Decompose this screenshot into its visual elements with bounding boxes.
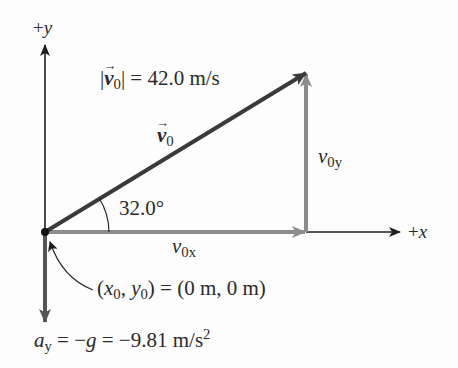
x-axis-label: +x <box>408 222 427 241</box>
vector-v0-label: →v0 <box>157 125 174 149</box>
vector-v0-symbol: →v <box>104 68 113 89</box>
projectile-velocity-diagram: +y +x |→v0| = 42.0 m/s →v0 v0y 32.0° v0x… <box>0 0 458 368</box>
y-axis-label: +y <box>33 18 52 37</box>
origin-point <box>41 228 49 236</box>
angle-label: 32.0° <box>119 198 164 219</box>
diagram-graphics <box>0 0 458 368</box>
angle-arc <box>99 198 109 232</box>
origin-pointer-curve <box>50 242 93 290</box>
v0y-component-label: v0y <box>318 146 342 170</box>
v0-vector-arrow <box>45 73 306 232</box>
acceleration-label: ay = −g = −9.81 m/s2 <box>34 327 210 354</box>
v0x-component-label: v0x <box>172 236 196 260</box>
origin-label: (x0, y0) = (0 m, 0 m) <box>97 278 266 302</box>
velocity-magnitude-label: |→v0| = 42.0 m/s <box>100 68 220 92</box>
